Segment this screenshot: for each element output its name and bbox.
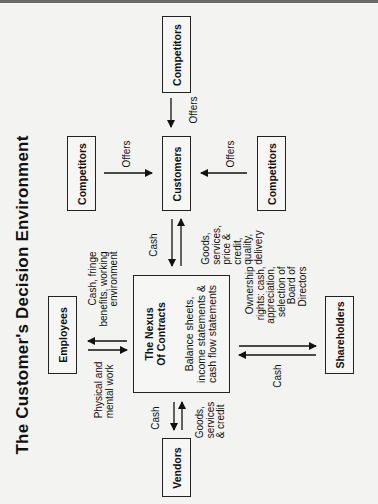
label-customer-cash: Cash	[149, 233, 160, 256]
label-offers-top: Offers	[189, 96, 200, 123]
label-shareholder-cash: Cash	[273, 364, 284, 387]
arrows-layer	[0, 0, 378, 504]
label-employee-compensation: Cash, fringe benefits, working environme…	[88, 251, 120, 326]
label-customer-goods: Goods, services, price & credit, quality…	[201, 225, 264, 264]
label-vendor-goods: Goods, services & credit	[195, 402, 227, 439]
label-offers-left: Offers	[122, 140, 133, 167]
label-vendor-cash: Cash	[151, 406, 162, 429]
label-offers-right: Offers	[226, 140, 237, 167]
label-employee-work: Physical and mental work	[94, 362, 115, 419]
label-ownership-rights: Ownership rights: cash, appreciation, se…	[245, 266, 308, 323]
